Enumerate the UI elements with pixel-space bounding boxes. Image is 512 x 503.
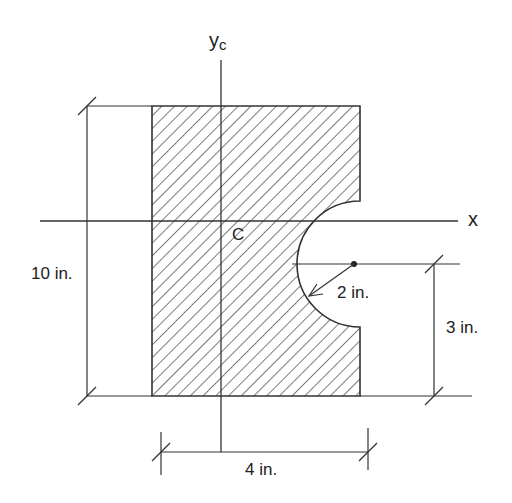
yc-axis-letter: y bbox=[209, 29, 219, 51]
width-dimension-label: 4 in. bbox=[245, 460, 277, 480]
cross-section-shape bbox=[152, 106, 360, 396]
centroid-label: C bbox=[232, 225, 244, 245]
radius-dimension-label: 2 in. bbox=[337, 283, 369, 303]
height-dimension-label: 10 in. bbox=[31, 264, 73, 284]
height-dimension bbox=[78, 97, 152, 405]
x-axis-label: x bbox=[468, 208, 478, 231]
yc-axis-subscript: c bbox=[219, 36, 227, 53]
yc-axis-label: yc bbox=[209, 29, 227, 55]
notch-offset-dimension-label: 3 in. bbox=[446, 318, 478, 338]
section-drawing bbox=[0, 0, 512, 503]
notch-offset-dimension bbox=[425, 255, 443, 405]
